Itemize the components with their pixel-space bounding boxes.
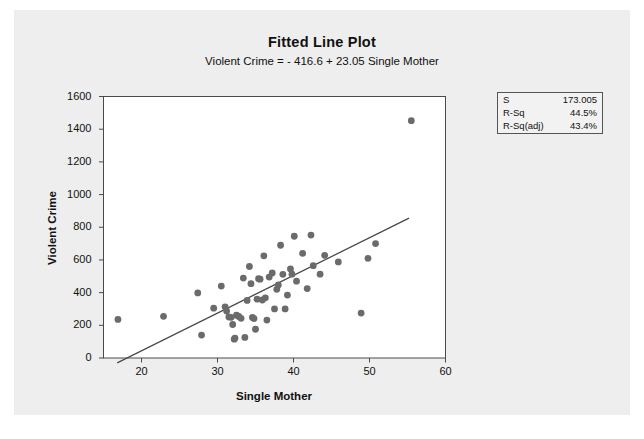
- stat-value: 43.4%: [570, 120, 597, 131]
- scatter-point: [299, 250, 306, 257]
- scatter-point: [246, 263, 253, 270]
- scatter-point: [291, 233, 298, 240]
- screenshot-page: Fitted Line Plot Violent Crime = - 416.6…: [0, 0, 644, 439]
- scatter-point: [229, 321, 236, 328]
- scatter-point: [248, 280, 255, 287]
- scatter-point: [282, 306, 289, 313]
- x-tick-label: 30: [198, 365, 238, 377]
- scatter-point: [251, 315, 258, 322]
- scatter-point: [293, 278, 300, 285]
- scatter-point: [321, 252, 328, 259]
- axis-frame: [104, 97, 446, 359]
- x-tick-label: 50: [350, 365, 390, 377]
- scatter-point: [365, 255, 372, 262]
- scatter-point: [264, 317, 271, 324]
- scatter-point: [408, 117, 415, 124]
- x-tick-label: 60: [426, 365, 466, 377]
- scatter-point: [310, 262, 317, 269]
- y-tick-label: 0: [52, 351, 92, 363]
- y-tick-label: 1200: [52, 155, 92, 167]
- x-tick-label: 40: [274, 365, 314, 377]
- scatter-point: [335, 258, 342, 265]
- scatter-point: [198, 332, 205, 339]
- stat-value: 44.5%: [570, 107, 597, 118]
- scatter-point: [241, 334, 248, 341]
- scatter-point: [289, 271, 296, 278]
- scatter-point: [308, 232, 315, 239]
- scatter-point: [279, 271, 286, 278]
- y-tick-label: 600: [52, 253, 92, 265]
- scatter-point: [160, 313, 167, 320]
- y-tick-label: 400: [52, 286, 92, 298]
- scatter-point: [238, 315, 245, 322]
- scatter-point: [240, 275, 247, 282]
- scatter-plot-canvas: [0, 0, 644, 439]
- stat-label: R-Sq(adj): [503, 120, 544, 131]
- x-tick-label: 20: [122, 365, 162, 377]
- stat-row: S 173.005: [498, 93, 602, 106]
- y-tick-label: 1000: [52, 188, 92, 200]
- scatter-point: [194, 290, 201, 297]
- y-tick-label: 800: [52, 220, 92, 232]
- scatter-point: [260, 252, 267, 259]
- scatter-point: [284, 292, 291, 299]
- stat-row: R-Sq(adj) 43.4%: [498, 119, 602, 132]
- scatter-point: [218, 283, 225, 290]
- scatter-point: [277, 242, 284, 249]
- y-tick-label: 200: [52, 318, 92, 330]
- stat-row: R-Sq 44.5%: [498, 106, 602, 119]
- scatter-point: [115, 316, 122, 323]
- scatter-point: [372, 240, 379, 247]
- scatter-point: [252, 326, 259, 333]
- scatter-point: [269, 270, 276, 277]
- scatter-point: [223, 308, 230, 315]
- scatter-point: [271, 306, 278, 313]
- scatter-point: [244, 297, 251, 304]
- stat-label: R-Sq: [503, 107, 525, 118]
- statistics-box: S 173.005 R-Sq 44.5% R-Sq(adj) 43.4%: [497, 92, 603, 134]
- y-tick-label: 1400: [52, 122, 92, 134]
- scatter-point: [262, 294, 269, 301]
- scatter-point: [275, 282, 282, 289]
- scatter-point: [317, 271, 324, 278]
- stat-label: S: [503, 94, 509, 105]
- scatter-point: [210, 305, 217, 312]
- y-tick-label: 1600: [52, 90, 92, 102]
- scatter-point: [358, 310, 365, 317]
- scatter-point: [304, 285, 311, 292]
- scatter-point: [232, 335, 239, 342]
- stat-value: 173.005: [563, 94, 597, 105]
- scatter-point: [257, 276, 264, 283]
